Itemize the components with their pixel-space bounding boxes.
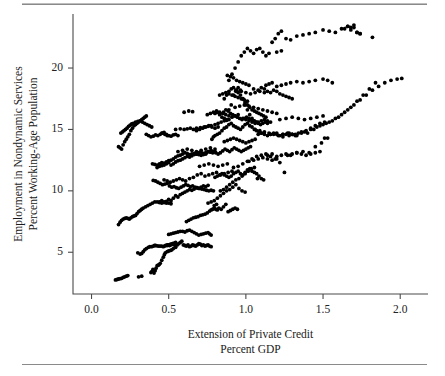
scatter-point <box>313 78 317 82</box>
scatter-point <box>279 29 283 33</box>
scatter-point <box>278 118 282 122</box>
scatter-point <box>352 103 356 107</box>
scatter-point <box>279 83 283 87</box>
scatter-point <box>300 131 304 135</box>
scatter-point <box>301 33 305 37</box>
scatter-point <box>209 233 213 237</box>
scatter-point <box>321 114 325 118</box>
scatter-point <box>240 174 244 178</box>
scatter-point <box>188 177 192 181</box>
x-tick-label: 1.5 <box>316 303 331 315</box>
scatter-point <box>199 172 203 176</box>
scatter-point <box>343 27 347 31</box>
scatter-point <box>180 239 184 243</box>
scatter-point <box>228 183 232 187</box>
scatter-point <box>246 169 250 173</box>
x-axis-ticks: 0.00.51.01.52.0 <box>84 294 407 315</box>
scatter-point <box>219 194 223 198</box>
scatter-point <box>361 93 365 97</box>
x-tick-label: 0.0 <box>84 303 99 315</box>
scatter-point <box>222 172 226 176</box>
scatter-point <box>237 186 241 190</box>
scatter-point <box>230 169 234 173</box>
scatter-point <box>120 147 124 151</box>
scatter-point <box>352 26 356 30</box>
scatter-point <box>320 141 324 145</box>
scatter-point <box>242 50 246 54</box>
scatter-point <box>264 54 268 58</box>
scatter-point <box>256 107 260 111</box>
axis-lines <box>73 14 428 294</box>
scatter-point <box>203 174 207 178</box>
scatter-point <box>309 152 313 156</box>
scatter-point <box>273 37 277 41</box>
scatter-point <box>236 60 240 64</box>
scatter-point <box>290 97 294 101</box>
scatter-point <box>126 274 130 278</box>
scatter-point <box>337 115 341 119</box>
scatter-point <box>225 185 229 189</box>
scatter-point <box>198 164 202 168</box>
scatter-point <box>340 113 344 117</box>
scatter-point <box>185 147 189 151</box>
scatter-point <box>400 77 404 81</box>
y-tick-label: 10 <box>52 183 64 195</box>
scatter-point <box>247 159 251 163</box>
scatter-point <box>293 134 297 138</box>
scatter-point <box>221 163 225 167</box>
scatter-point <box>190 148 194 152</box>
scatter-point <box>343 110 347 114</box>
scatter-point <box>209 245 213 249</box>
scatter-point <box>261 156 265 160</box>
scatter-point <box>222 191 226 195</box>
x-tick-label: 0.5 <box>162 303 177 315</box>
scatter-point <box>301 81 305 85</box>
scatter-point <box>346 108 350 112</box>
scatter-point <box>229 103 233 107</box>
scatter-point <box>330 81 334 85</box>
scatter-point <box>323 136 327 140</box>
scatter-point <box>247 104 251 108</box>
scatter-point <box>235 88 239 92</box>
scatter-point <box>252 158 256 162</box>
x-tick-label: 2.0 <box>393 303 408 315</box>
scatter-point <box>253 137 257 141</box>
scatter-point <box>252 87 256 91</box>
scatter-point <box>236 113 240 117</box>
scatter-point <box>252 51 256 55</box>
y-tick-label: 15 <box>52 122 64 134</box>
scatter-point <box>296 116 300 120</box>
scatter-point <box>212 199 216 203</box>
scatter-point <box>266 157 270 161</box>
scatter-point <box>219 173 223 177</box>
scatter-point <box>270 40 274 44</box>
y-tick-label: 20 <box>52 61 64 73</box>
scatter-point <box>199 148 203 152</box>
scatter-point <box>204 147 208 151</box>
scatter-point <box>395 77 399 81</box>
scatter-point <box>295 34 299 38</box>
scatter-point <box>307 32 311 36</box>
scatter-point <box>269 91 273 95</box>
scatter-point <box>238 104 242 108</box>
scatter-point <box>236 164 240 168</box>
scatter-point <box>213 147 217 151</box>
scatter-point <box>246 46 250 50</box>
scatter-point <box>275 50 279 54</box>
scatter-point <box>289 38 293 42</box>
scatter-point <box>195 173 199 177</box>
scatter-point <box>256 177 260 181</box>
scatter-point <box>270 81 274 85</box>
scatter-point <box>228 188 232 192</box>
scatter-point <box>184 179 188 183</box>
scatter-point <box>237 177 241 181</box>
scatter-point <box>215 202 219 206</box>
scatter-point <box>207 173 211 177</box>
scatter-point <box>181 148 185 152</box>
scatter-point <box>239 89 243 93</box>
scatter-point <box>309 126 313 130</box>
scatter-point <box>290 115 294 119</box>
scatter-point <box>270 158 274 162</box>
scatter-point <box>256 157 260 161</box>
scatter-point <box>216 125 220 129</box>
